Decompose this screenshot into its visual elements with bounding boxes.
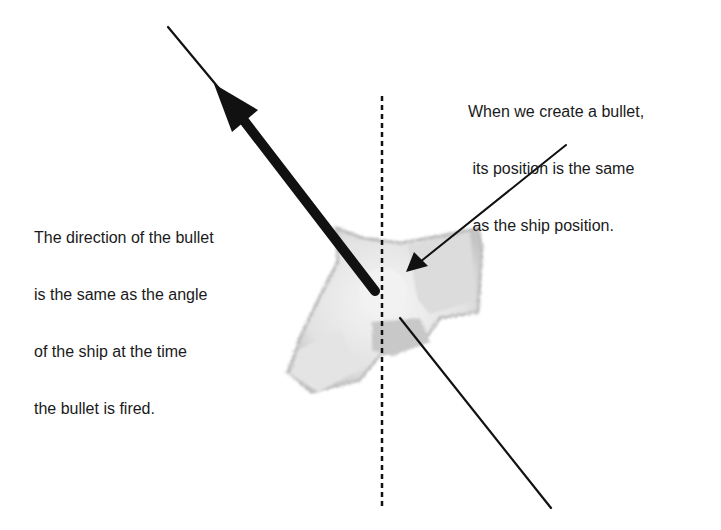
direction-note: The direction of the bullet is the same … <box>34 190 214 437</box>
position-note-line-3: as the ship position. <box>468 216 644 235</box>
ship-angle-line-upper <box>168 27 222 92</box>
direction-note-line-3: of the ship at the time <box>34 342 214 361</box>
position-note-line-1: When we create a bullet, <box>468 102 644 121</box>
position-note-line-2: its position is the same <box>468 159 644 178</box>
bullet-direction-arrow-shaft <box>242 118 375 291</box>
ship-angle-line-lower <box>400 318 551 508</box>
direction-note-line-1: The direction of the bullet <box>34 228 214 247</box>
direction-note-line-4: the bullet is fired. <box>34 399 214 418</box>
direction-note-line-2: is the same as the angle <box>34 285 214 304</box>
position-note: When we create a bullet, its position is… <box>468 64 644 254</box>
